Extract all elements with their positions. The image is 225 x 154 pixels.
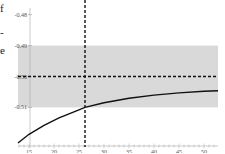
y-tick-label: -0.48 [15, 12, 28, 18]
x-tick-label: 50 [201, 149, 207, 153]
y-tick-label: -0.51 [15, 104, 28, 110]
x-tick-label: 15 [26, 149, 32, 153]
line-chart: -0.48-0.49-0.50-0.51 1520253035404550 [0, 0, 225, 153]
x-tick-label: 35 [126, 149, 132, 153]
y-tick-label: -0.49 [15, 43, 28, 49]
x-tick-label: 30 [101, 149, 107, 153]
x-tick-label: 20 [51, 149, 57, 153]
x-tick-label: 40 [151, 149, 157, 153]
x-tick-label: 45 [176, 149, 182, 153]
x-tick-label: 25 [76, 149, 82, 153]
x-axis: 1520253035404550 [18, 144, 218, 154]
